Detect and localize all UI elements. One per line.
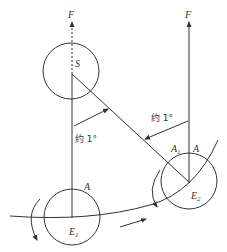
earth2-label: E2 [190, 190, 201, 203]
sun-to-earth2-line [72, 74, 190, 183]
point-a-right-label: A [192, 143, 200, 154]
right-angle-label: 约 1° [151, 112, 173, 123]
left-force-label: F [67, 9, 75, 20]
earth1-label: E1 [68, 226, 79, 239]
earth1-rotation-arrow [31, 199, 40, 240]
right-force-label: F [184, 9, 192, 20]
left-angle-arrow [74, 109, 108, 126]
point-a-left-label: A [83, 181, 91, 192]
orbit-path [10, 140, 218, 218]
orbit-direction-arrow [120, 219, 146, 227]
sun-label: S [75, 58, 80, 69]
left-angle-label: 约 1° [75, 133, 97, 144]
right-angle-arrow [145, 121, 188, 139]
earth2-rotation-arrow [152, 170, 160, 207]
point-a1-label: A1 [170, 143, 181, 156]
diagram-canvas: F S 约 1° F 约 1° A1 A E2 A E1 [0, 0, 227, 252]
